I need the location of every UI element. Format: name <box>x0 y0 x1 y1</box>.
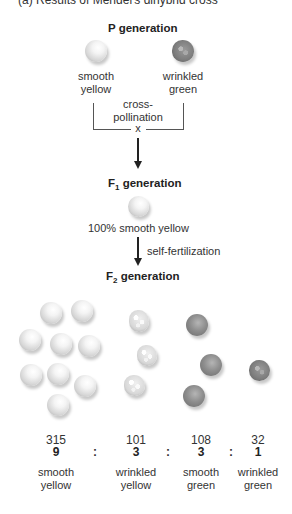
pea-smooth-yellow <box>50 333 72 355</box>
pea-smooth-yellow <box>47 363 69 385</box>
pea-wrinkled-yellow <box>124 375 145 396</box>
arrow-p-to-f1-shaft <box>137 138 139 162</box>
ratio-separator: : <box>229 445 233 459</box>
bracket-bottom-right-line <box>146 129 184 130</box>
pea-smooth-yellow <box>40 302 62 324</box>
label-smooth-green: smooth green <box>175 466 227 492</box>
bracket-bottom-left-line <box>93 129 131 130</box>
parent-label-smooth-yellow: smooth yellow <box>70 70 122 96</box>
parent-pea-smooth-yellow <box>85 40 107 62</box>
p-generation-heading: P generation <box>108 22 177 34</box>
f1-generation-heading: F1 generation <box>108 177 181 192</box>
ratio-smooth-yellow: 9 <box>36 445 76 459</box>
arrow-p-to-f1-head-icon <box>134 161 142 169</box>
pea-wrinkled-yellow <box>129 310 149 332</box>
cross-pollination-label: cross- pollination <box>108 98 168 124</box>
self-fertilization-label: self-fertilization <box>147 245 220 258</box>
pea-smooth-yellow <box>78 335 100 357</box>
pea-wrinkled-green <box>249 360 270 381</box>
label-wrinkled-yellow: wrinkled yellow <box>108 466 164 492</box>
pea-smooth-yellow <box>47 394 69 416</box>
cross-symbol: x <box>132 122 144 135</box>
ratio-separator: : <box>93 445 97 459</box>
pea-smooth-yellow <box>71 300 93 322</box>
pea-wrinkled-yellow <box>137 345 157 366</box>
pea-smooth-green <box>183 385 205 407</box>
arrow-f1-to-f2-shaft <box>137 237 139 259</box>
bracket-right-line <box>183 103 184 129</box>
figure-title: (a) Results of Mendel's dihybrid cross <box>18 0 218 7</box>
label-smooth-yellow: smooth yellow <box>30 466 82 492</box>
pea-smooth-green <box>186 314 208 336</box>
pea-smooth-yellow <box>19 329 41 351</box>
ratio-smooth-green: 3 <box>181 445 221 459</box>
label-wrinkled-green: wrinkled green <box>230 466 286 492</box>
pea-smooth-yellow <box>20 364 42 386</box>
ratio-wrinkled-yellow: 3 <box>116 445 156 459</box>
pea-smooth-yellow <box>74 375 96 397</box>
arrow-f1-to-f2-head-icon <box>134 258 142 266</box>
bracket-left-line <box>93 103 94 129</box>
ratio-wrinkled-green: 1 <box>238 445 278 459</box>
f1-result-label: 100% smooth yellow <box>88 222 188 235</box>
f1-pea-smooth-yellow <box>128 196 149 217</box>
parent-label-wrinkled-green: wrinkled green <box>156 70 210 96</box>
ratio-separator: : <box>166 445 170 459</box>
parent-pea-wrinkled-green <box>172 40 194 62</box>
pea-smooth-green <box>200 354 222 376</box>
f2-generation-heading: F2 generation <box>106 270 179 285</box>
